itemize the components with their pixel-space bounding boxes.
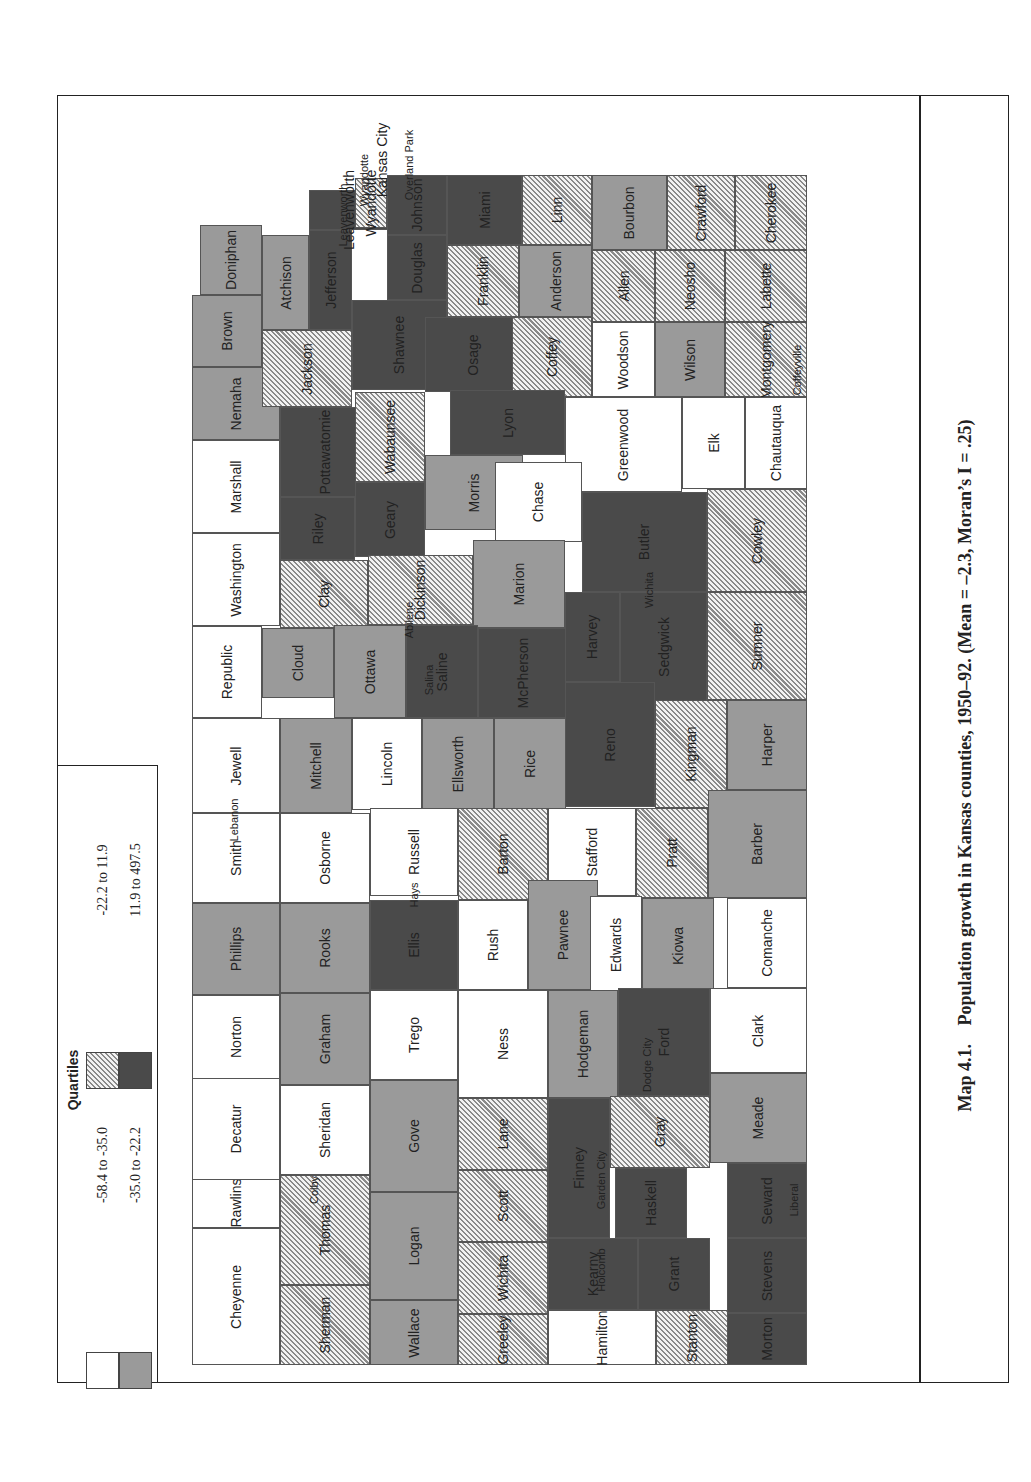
county-label: Pratt — [664, 838, 680, 868]
county-stevens: Stevens — [727, 1238, 807, 1313]
legend-label-q4: 11.9 to 497.5 — [125, 825, 147, 935]
county-osage: Osage — [425, 317, 520, 392]
county-label: Wilson — [682, 338, 698, 380]
county-label: Norton — [228, 1016, 244, 1058]
county-label: Marshall — [228, 460, 244, 513]
county-geary: Geary — [355, 482, 425, 557]
county-label: Edwards — [608, 918, 624, 972]
city-label-dodge-city: Dodge City — [638, 1025, 656, 1105]
city-label-salina: Salina — [420, 655, 438, 705]
county-label: Sheridan — [317, 1102, 333, 1158]
county-label: Sumner — [749, 621, 765, 670]
county-label: Cheyenne — [228, 1265, 244, 1329]
city-label-abilene: Abilene — [400, 590, 418, 650]
county-label: Osage — [465, 334, 481, 375]
county-decatur: Decatur — [192, 1077, 280, 1180]
county-kiowa: Kiowa — [642, 898, 714, 993]
county-label: Lincoln — [379, 742, 395, 786]
county-label: Mitchell — [308, 742, 324, 789]
county-lyon: Lyon — [450, 390, 565, 455]
county-riley: Riley — [280, 497, 355, 560]
city-label-leavenworth: Leavenworth — [330, 165, 354, 265]
county-label: Rice — [522, 750, 538, 778]
county-brown: Brown — [192, 295, 262, 367]
county-norton: Norton — [192, 995, 280, 1079]
county-mitchell: Mitchell — [280, 718, 352, 813]
county-edwards: Edwards — [590, 896, 642, 994]
county-label: Greenwood — [615, 408, 631, 480]
county-ford: Ford — [618, 988, 710, 1096]
county-label: Stanton — [684, 1313, 700, 1361]
county-sherman: Sherman — [280, 1285, 370, 1365]
county-label: Gove — [406, 1119, 422, 1152]
county-label: Rawlins — [228, 1178, 244, 1227]
county-hamilton: Hamilton — [548, 1310, 656, 1365]
county-comanche: Comanche — [727, 898, 807, 988]
county-label: Ness — [495, 1028, 511, 1060]
county-anderson: Anderson — [519, 245, 592, 317]
county-ottawa: Ottawa — [334, 625, 406, 718]
county-label: Morton — [759, 1317, 775, 1361]
county-neosho: Neosho — [655, 250, 725, 322]
county-pratt: Pratt — [636, 808, 708, 898]
county-greeley: Greeley — [458, 1314, 548, 1365]
city-label-wichita: Wichita — [640, 555, 658, 625]
city-label-overland-park: Overland Park — [397, 115, 421, 215]
county-meade: Meade — [710, 1073, 807, 1163]
county-gray: Gray — [610, 1096, 710, 1168]
county-sheridan: Sheridan — [280, 1085, 370, 1175]
county-label: Harper — [759, 724, 775, 767]
county-label: Wallace — [406, 1308, 422, 1357]
county-label: Nemaha — [228, 377, 244, 430]
county-label: Ellis — [406, 932, 422, 958]
county-atchison: Atchison — [262, 235, 309, 330]
county-label: Wichita — [495, 1255, 511, 1301]
caption-text: Population growth in Kansas counties, 19… — [955, 419, 975, 1025]
county-pawnee: Pawnee — [528, 880, 598, 990]
county-haskell: Haskell — [615, 1168, 687, 1238]
legend-label-q3: -22.2 to 11.9 — [92, 825, 114, 935]
county-label: Brown — [219, 311, 235, 351]
county-label: Sherman — [317, 1297, 333, 1354]
city-label-coffeyville: Coffeyville — [788, 330, 806, 410]
county-label: Marion — [511, 563, 527, 606]
county-clark: Clark — [710, 988, 807, 1073]
county-label: Cloud — [290, 645, 306, 682]
county-ellsworth: Ellsworth — [422, 718, 494, 810]
county-barber: Barber — [708, 790, 807, 898]
county-label: Allen — [615, 270, 631, 301]
county-cloud: Cloud — [262, 628, 334, 698]
county-rush: Rush — [458, 900, 528, 990]
county-woodson: Woodson — [592, 322, 655, 397]
city-label-hays: Hays — [405, 875, 423, 915]
county-doniphan: Doniphan — [200, 225, 262, 295]
county-label: Harvey — [584, 615, 600, 659]
county-rawlins: Rawlins — [192, 1178, 280, 1228]
city-label-garden-city: Garden City — [592, 1140, 610, 1220]
county-wabaunsee: Wabaunsee — [355, 392, 425, 482]
county-label: Decatur — [228, 1104, 244, 1153]
county-label: Jewell — [228, 746, 244, 785]
legend-swatch-q3 — [86, 1052, 119, 1089]
county-elk: Elk — [682, 397, 745, 489]
county-label: Logan — [406, 1227, 422, 1266]
county-label: Ford — [656, 1028, 672, 1057]
county-scott: Scott — [458, 1170, 548, 1242]
county-coffey: Coffey — [512, 317, 592, 397]
county-grant: Grant — [638, 1238, 710, 1310]
county-mcpherson: McPherson — [478, 628, 568, 718]
county-label: Barber — [750, 823, 766, 865]
city-label-lebanon: Lebanon — [225, 790, 243, 850]
county-greenwood: Greenwood — [565, 397, 682, 492]
county-label: Doniphan — [223, 230, 239, 290]
county-label: Gray — [652, 1117, 668, 1147]
city-label-colby: Colby — [305, 1170, 323, 1210]
county-trego: Trego — [370, 990, 458, 1080]
county-label: Wabaunsee — [382, 400, 398, 474]
county-chautauqua: Chautauqua — [745, 397, 807, 489]
county-label: Finney — [571, 1147, 587, 1189]
county-label: Clark — [750, 1014, 766, 1047]
county-label: Labette — [758, 263, 774, 310]
city-label-wyandotte: Wyandotte — [352, 150, 376, 210]
county-label: Bourbon — [622, 186, 638, 239]
